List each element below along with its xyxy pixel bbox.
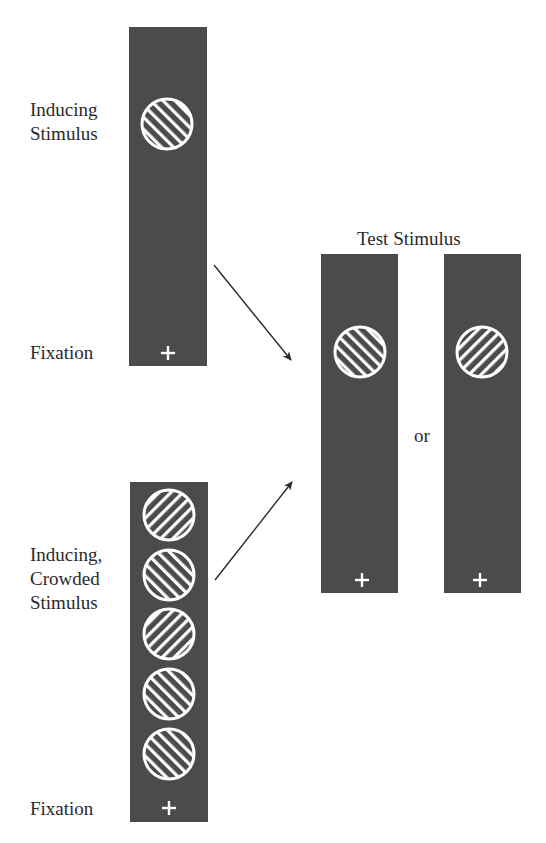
fixation-cross-icon: [161, 346, 175, 360]
figure-graphics: [0, 0, 546, 843]
grating-stimulus-icon: [144, 609, 194, 659]
grating-stimulus-icon: [142, 99, 192, 149]
arrow-icon: [215, 482, 292, 580]
grating-stimulus-icon: [144, 490, 194, 540]
grating-stimulus-icon: [144, 550, 194, 600]
grating-stimulus-icon: [457, 327, 507, 377]
fixation-cross-icon: [473, 573, 487, 587]
fixation-cross-icon: [355, 573, 369, 587]
grating-stimulus-icon: [335, 327, 385, 377]
grating-stimulus-icon: [144, 669, 194, 719]
fixation-cross-icon: [162, 801, 176, 815]
grating-stimulus-icon: [144, 729, 194, 779]
arrow-icon: [214, 265, 291, 360]
